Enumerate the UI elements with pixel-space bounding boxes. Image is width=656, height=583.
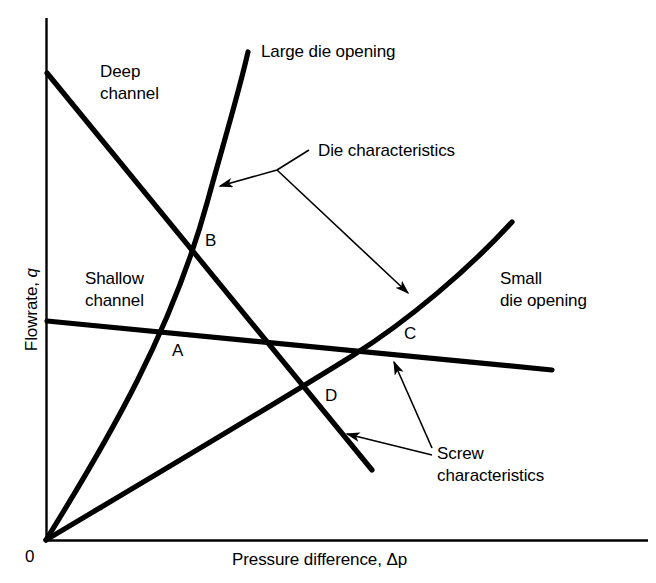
flowrate-pressure-diagram: Flowrate, q Pressure difference, Δp 0 De… [0,0,656,583]
label-point-c: C [404,323,416,344]
leader-screw-arrow-to-shallow [394,362,432,448]
x-axis-title: Pressure difference, Δp [232,549,407,570]
y-axis-title-text: Flowrate, [22,277,41,351]
label-screw-characteristics-line2: characteristics [437,465,544,486]
leader-die-arrow-to-large [220,170,277,186]
y-axis-title: Flowrate, q [21,240,42,380]
label-small-die-opening-line1: Small [500,268,542,289]
label-deep-channel-line2: channel [100,83,159,104]
label-large-die-opening: Large die opening [261,41,395,62]
label-shallow-channel-line2: channel [85,290,144,311]
origin-label: 0 [25,546,34,567]
label-small-die-opening-line2: die opening [500,290,587,311]
label-point-b: B [205,230,216,251]
leader-die-arrow-to-small [277,170,408,293]
label-deep-channel-line1: Deep [100,61,140,82]
label-screw-characteristics-line1: Screw [437,443,484,464]
label-shallow-channel-line1: Shallow [85,268,144,289]
curve-large-die-opening [46,52,248,540]
leader-screw-characteristics [347,362,432,455]
label-die-characteristics: Die characteristics [318,140,455,161]
leader-die-stem [277,150,309,170]
leader-die-characteristics [220,150,408,293]
label-point-a: A [172,340,183,361]
curve-shallow-channel [47,321,552,370]
label-point-d: D [325,385,337,406]
y-axis-title-symbol: q [22,268,41,277]
